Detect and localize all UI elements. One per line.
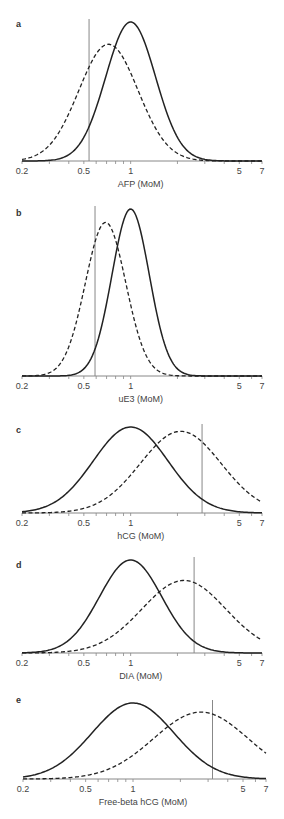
affected-curve bbox=[22, 222, 262, 376]
x-tick-label: 0.2 bbox=[17, 784, 30, 794]
x-axis-label: uE3 (MoM) bbox=[118, 394, 163, 404]
x-tick-label: 1 bbox=[130, 784, 135, 794]
figure-canvas: a0.20.5157AFP (MoM)b0.20.5157uE3 (MoM)c0… bbox=[0, 0, 284, 819]
x-tick-label: 1 bbox=[128, 658, 133, 668]
panel-letter: e bbox=[16, 695, 21, 705]
affected-curve bbox=[22, 580, 262, 653]
x-axis-label: Free-beta hCG (MoM) bbox=[99, 797, 188, 807]
x-tick-label: 0.5 bbox=[78, 166, 91, 176]
x-tick-label: 1 bbox=[128, 166, 133, 176]
x-tick-label: 5 bbox=[237, 166, 242, 176]
unaffected-curve bbox=[22, 22, 262, 161]
panel-letter: c bbox=[16, 425, 21, 435]
x-axis-label: DIA (MoM) bbox=[119, 671, 162, 681]
x-tick-label: 0.2 bbox=[16, 381, 29, 391]
x-tick-label: 5 bbox=[237, 381, 242, 391]
panel-letter: d bbox=[16, 560, 22, 570]
x-tick-label: 0.5 bbox=[78, 381, 91, 391]
x-tick-label: 7 bbox=[263, 784, 268, 794]
x-tick-label: 0.5 bbox=[79, 784, 92, 794]
x-tick-label: 1 bbox=[128, 381, 133, 391]
x-tick-label: 5 bbox=[237, 518, 242, 528]
panel-e: e0.20.5157Free-beta hCG (MoM) bbox=[16, 695, 269, 807]
x-tick-label: 7 bbox=[259, 518, 264, 528]
affected-curve bbox=[23, 712, 266, 779]
affected-curve bbox=[22, 44, 262, 161]
x-tick-label: 0.5 bbox=[78, 658, 91, 668]
panel-a: a0.20.5157AFP (MoM) bbox=[16, 19, 265, 189]
x-tick-label: 5 bbox=[240, 784, 245, 794]
panel-c: c0.20.5157hCG (MoM) bbox=[16, 424, 265, 541]
x-tick-label: 7 bbox=[259, 658, 264, 668]
x-tick-label: 7 bbox=[259, 166, 264, 176]
x-tick-label: 5 bbox=[237, 658, 242, 668]
unaffected-curve bbox=[22, 209, 262, 376]
panel-letter: a bbox=[16, 19, 22, 29]
unaffected-curve bbox=[23, 703, 266, 779]
panel-letter: b bbox=[16, 208, 22, 218]
x-tick-label: 0.2 bbox=[16, 658, 29, 668]
x-tick-label: 0.2 bbox=[16, 518, 29, 528]
x-tick-label: 0.2 bbox=[16, 166, 29, 176]
x-axis-label: AFP (MoM) bbox=[118, 179, 164, 189]
x-tick-label: 7 bbox=[259, 381, 264, 391]
x-tick-label: 0.5 bbox=[78, 518, 91, 528]
x-axis-label: hCG (MoM) bbox=[117, 531, 164, 541]
x-tick-label: 1 bbox=[128, 518, 133, 528]
panel-b: b0.20.5157uE3 (MoM) bbox=[16, 206, 265, 404]
unaffected-curve bbox=[22, 560, 262, 653]
panel-d: d0.20.5157DIA (MoM) bbox=[16, 557, 265, 681]
